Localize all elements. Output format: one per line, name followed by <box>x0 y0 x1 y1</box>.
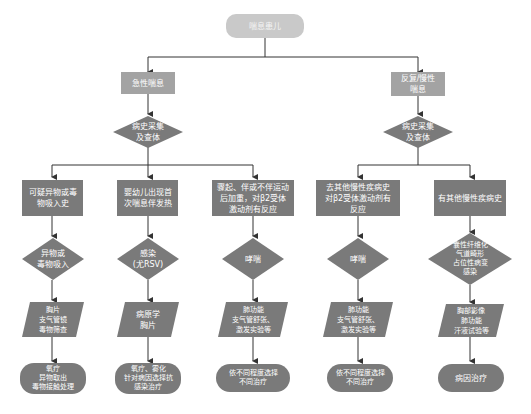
diagnosis-diamond-asthma-recurrent: 哮喘 <box>327 238 389 280</box>
treatment-box-infection: 氧疗、雾化 针对病因选择抗 感染治疗 <box>115 363 181 394</box>
diagnosis-label: 异物或 毒物吸入 <box>22 238 84 280</box>
diagnosis-diamond-foreign-body: 异物或 毒物吸入 <box>22 238 84 280</box>
assessment-diamond-recurrent: 病史采集 及查体 <box>383 116 453 148</box>
category-acute: 急性喘息 <box>121 72 175 94</box>
assessment-diamond-acute: 病史采集 及查体 <box>113 116 183 148</box>
diagnosis-label: 哮喘 <box>222 238 284 280</box>
root-node: 喘息患儿 <box>226 14 304 38</box>
diagnosis-label: 囊性纤维化 气道畸形 占位性病变 感染 <box>428 233 512 285</box>
diagnosis-diamond-infection: 感染 (尤RSV) <box>117 238 179 280</box>
tests-label: 肺功能 支气管舒张、 激发实验等 <box>323 302 393 337</box>
history-box-no-chronic: 去其他慢性疾病史 对β2受体激动剂有 反应 <box>316 180 400 216</box>
diagnosis-diamond-asthma-acute: 哮喘 <box>222 238 284 280</box>
tests-label: 肺功能 支气管舒张、 激发实验等 <box>218 302 288 337</box>
diagnosis-label: 感染 (尤RSV) <box>117 238 179 280</box>
tests-label: 病原学 胸片 <box>117 302 179 337</box>
treatment-box-asthma-recurrent: 依不同程度选择 不同治疗 <box>327 364 393 392</box>
tests-box-asthma-acute: 肺功能 支气管舒张、 激发实验等 <box>218 302 288 337</box>
tests-box-infection: 病原学 胸片 <box>117 302 179 337</box>
assessment-label: 病史采集 及查体 <box>113 116 183 148</box>
diagnosis-diamond-chronic: 囊性纤维化 气道畸形 占位性病变 感染 <box>428 233 512 285</box>
tests-box-foreign-body: 胸片 支气管镜 毒物筛查 <box>22 302 84 337</box>
tests-label: 胸片 支气管镜 毒物筛查 <box>22 302 84 337</box>
assessment-label: 病史采集 及查体 <box>383 116 453 148</box>
tests-box-chronic: 胸部影像 肺功能 汗液试验等 <box>438 304 504 337</box>
history-box-chronic: 有其他慢性疾病史 <box>434 180 506 216</box>
category-recurrent: 反复/慢性 喘息 <box>391 72 445 96</box>
history-box-foreign-body: 可疑异物或毒 物吸入史 <box>22 180 83 216</box>
treatment-box-chronic: 病因治疗 <box>438 364 504 392</box>
diagnosis-label: 哮喘 <box>327 238 389 280</box>
tests-label: 胸部影像 肺功能 汗液试验等 <box>438 304 504 337</box>
tests-box-asthma-recurrent: 肺功能 支气管舒张、 激发实验等 <box>323 302 393 337</box>
treatment-box-foreign-body: 氧疗 异物取出 毒物接触处理 <box>20 363 86 394</box>
treatment-box-asthma-acute: 依不同程度选择 不同治疗 <box>216 364 290 392</box>
history-box-infant-fever: 婴幼儿出现首 次喘息伴发热 <box>117 180 178 216</box>
history-box-sudden-onset: 骤起、伴或不伴运动 后加重，对β2受体 激动剂有反应 <box>212 180 294 216</box>
